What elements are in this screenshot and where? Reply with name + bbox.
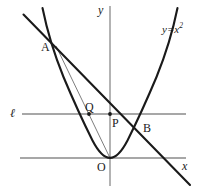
curve-equation-base: y=x [162, 23, 179, 35]
point-b-label: B [143, 122, 151, 134]
line-l-label: ℓ [10, 107, 15, 119]
point-q-label: Q [85, 101, 94, 113]
point-a-label: A [41, 41, 50, 53]
point-p-label: P [112, 117, 119, 129]
origin-label: O [97, 161, 106, 173]
y-axis-label: y [98, 4, 103, 16]
chord-a-to-origin [56, 46, 110, 158]
geometry-figure: y x O A B P Q ℓ y=x2 [0, 0, 209, 195]
x-axis-label: x [182, 160, 187, 172]
curve-equation-exponent: 2 [179, 21, 183, 30]
curve-equation-label: y=x2 [162, 22, 183, 35]
